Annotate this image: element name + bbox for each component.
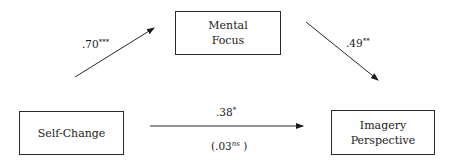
node-label-line: Perspective: [351, 133, 416, 148]
coef-label-direct: .38*: [216, 106, 236, 118]
significance-marker: ns: [232, 140, 240, 148]
node-imagery-perspective: Imagery Perspective: [331, 110, 435, 155]
significance-marker: ***: [99, 38, 110, 46]
node-label-line: Mental: [208, 18, 247, 33]
coef-label-mentalfocus-imagery: .49**: [346, 37, 370, 49]
coef-value: .38: [216, 106, 233, 118]
paren-close: ): [240, 140, 247, 152]
node-self-change: Self-Change: [19, 111, 124, 155]
node-label-line: Focus: [208, 33, 247, 48]
node-mental-focus: Mental Focus: [175, 11, 281, 55]
coef-value: .49: [346, 37, 363, 49]
arrow-selfchange-to-mentalfocus: [75, 28, 154, 77]
significance-marker: **: [363, 37, 370, 45]
node-label-line: Imagery: [351, 118, 416, 133]
node-label-line: Self-Change: [38, 126, 106, 141]
coef-label-selfchange-mentalfocus: .70***: [82, 38, 109, 50]
coef-label-direct-controlled: (.03ns ): [211, 140, 247, 152]
coef-value: (.03: [211, 140, 232, 152]
arrow-mentalfocus-to-imagery: [306, 22, 378, 80]
significance-marker: *: [233, 106, 237, 114]
coef-value: .70: [82, 38, 99, 50]
